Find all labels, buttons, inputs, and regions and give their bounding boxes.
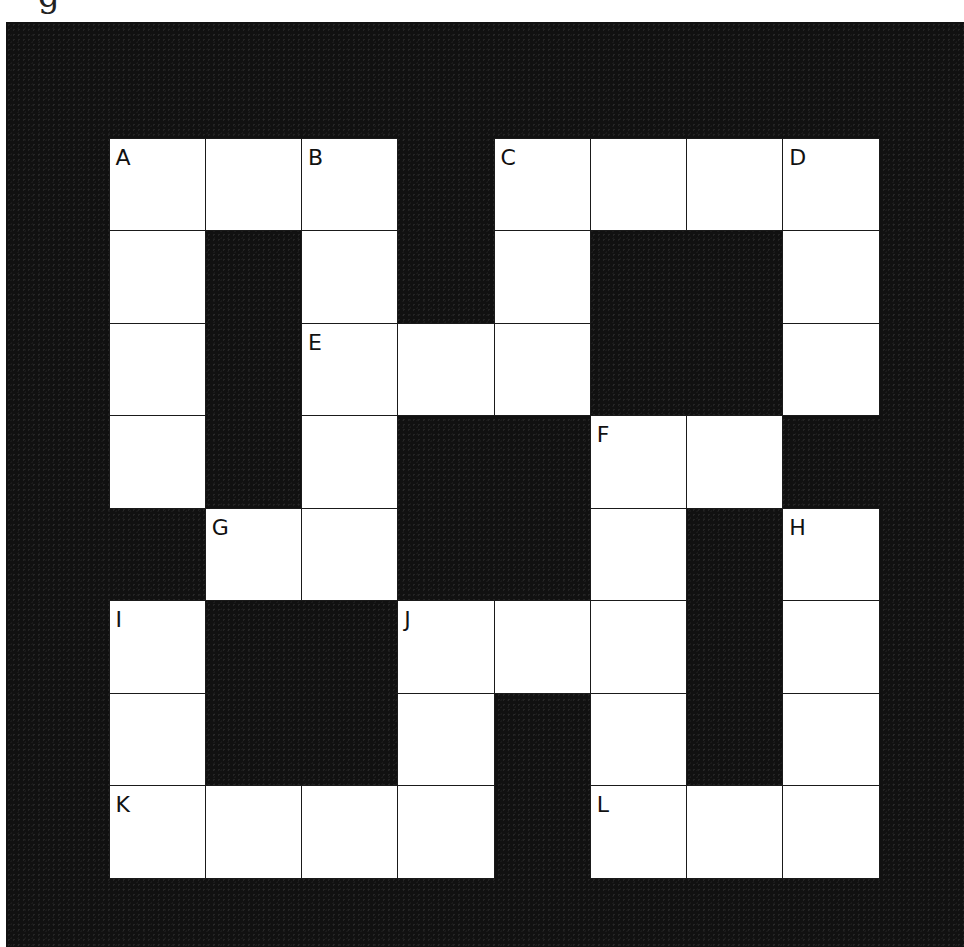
clue-label: C: [501, 147, 516, 169]
crossword-cell[interactable]: [686, 415, 783, 509]
crossword-cell[interactable]: J: [397, 600, 494, 694]
clue-label: I: [116, 609, 123, 631]
crossword-cell[interactable]: C: [494, 138, 591, 232]
clue-label: G: [212, 517, 229, 539]
crossword-cell[interactable]: [782, 230, 879, 324]
crossword-cell[interactable]: A: [109, 138, 206, 232]
blocked-cell: [398, 231, 494, 324]
blocked-cell: [590, 231, 686, 324]
blocked-cell: [205, 323, 301, 416]
crossword-cell[interactable]: [590, 600, 687, 694]
crossword-cell[interactable]: [109, 230, 206, 324]
blocked-cell: [302, 693, 398, 786]
crossword-cell[interactable]: [397, 785, 494, 879]
blocked-cell: [302, 601, 398, 694]
crossword-cell[interactable]: F: [590, 415, 687, 509]
crossword-cell[interactable]: [109, 323, 206, 417]
crossword-cell[interactable]: [782, 693, 879, 787]
crossword-board: ABCDEFGHIJKL: [6, 22, 964, 947]
crossword-cell[interactable]: [782, 323, 879, 417]
crossword-cell[interactable]: [782, 785, 879, 879]
crossword-cell[interactable]: [494, 230, 591, 324]
clue-label: H: [789, 517, 806, 539]
crossword-cell[interactable]: [301, 785, 398, 879]
clue-label: J: [404, 609, 411, 631]
blocked-cell: [590, 323, 686, 416]
blocked-cell: [205, 416, 301, 509]
crossword-cell[interactable]: [205, 138, 302, 232]
crossword-cell[interactable]: [301, 508, 398, 602]
crossword-cell[interactable]: [494, 600, 591, 694]
crossword-cell[interactable]: [494, 323, 591, 417]
blocked-cell: [687, 601, 783, 694]
blocked-cell: [109, 508, 205, 601]
crossword-cell[interactable]: [397, 323, 494, 417]
crossword-cell[interactable]: B: [301, 138, 398, 232]
clue-label: K: [116, 794, 130, 816]
clue-label: F: [597, 424, 610, 446]
blocked-cell: [398, 138, 494, 231]
blocked-cell: [205, 693, 301, 786]
crossword-grid: ABCDEFGHIJKL: [109, 138, 879, 878]
crossword-cell[interactable]: I: [109, 600, 206, 694]
crossword-cell[interactable]: [782, 600, 879, 694]
crossword-cell[interactable]: [686, 138, 783, 232]
crossword-cell[interactable]: [686, 785, 783, 879]
crossword-cell[interactable]: [590, 693, 687, 787]
clue-label: A: [116, 147, 131, 169]
page: g ABCDEFGHIJKL: [0, 0, 964, 947]
blocked-cell: [494, 786, 590, 879]
blocked-cell: [687, 508, 783, 601]
crossword-cell[interactable]: G: [205, 508, 302, 602]
blocked-cell: [687, 231, 783, 324]
clue-label: B: [308, 147, 323, 169]
blocked-cell: [398, 416, 494, 509]
clue-label: E: [308, 332, 322, 354]
crossword-cell[interactable]: [590, 138, 687, 232]
blocked-cell: [783, 416, 879, 509]
crossword-cell[interactable]: H: [782, 508, 879, 602]
crossword-cell[interactable]: D: [782, 138, 879, 232]
blocked-cell: [205, 231, 301, 324]
blocked-cell: [494, 416, 590, 509]
blocked-cell: [494, 693, 590, 786]
crossword-cell[interactable]: [205, 785, 302, 879]
blocked-cell: [687, 323, 783, 416]
crossword-cell[interactable]: E: [301, 323, 398, 417]
blocked-cell: [398, 508, 494, 601]
crossword-cell[interactable]: [301, 415, 398, 509]
crossword-cell[interactable]: L: [590, 785, 687, 879]
crossword-cell[interactable]: [109, 415, 206, 509]
clue-label: L: [597, 794, 609, 816]
cropped-header-text: g: [38, 0, 60, 12]
blocked-cell: [687, 693, 783, 786]
crossword-cell[interactable]: [397, 693, 494, 787]
crossword-cell[interactable]: K: [109, 785, 206, 879]
blocked-cell: [205, 601, 301, 694]
crossword-cell[interactable]: [301, 230, 398, 324]
crossword-cell[interactable]: [109, 693, 206, 787]
blocked-cell: [494, 508, 590, 601]
clue-label: D: [789, 147, 806, 169]
crossword-cell[interactable]: [590, 508, 687, 602]
